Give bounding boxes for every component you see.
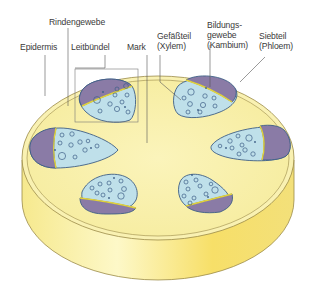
stem-cross-section-diagram: Rindengewebe Epidermis Leitbündel Mark G… <box>0 0 316 290</box>
label-gefaessteil-line1: Gefäßteil <box>157 31 191 41</box>
label-leitbuendel: Leitbündel <box>71 42 110 52</box>
label-siebteil-line2: (Phloem) <box>259 41 293 51</box>
label-siebteil-line1: Siebteil <box>259 31 293 41</box>
label-gefaessteil-line2: (Xylem) <box>157 41 191 51</box>
label-epidermis: Epidermis <box>20 42 57 52</box>
label-rindengewebe: Rindengewebe <box>49 17 105 27</box>
label-siebteil: Siebteil (Phloem) <box>259 31 293 51</box>
label-bildungsgewebe-line1: Bildungs- <box>207 20 248 30</box>
label-bildungsgewebe-line3: (Kambium) <box>207 40 248 50</box>
label-mark: Mark <box>127 42 146 52</box>
label-bildungsgewebe: Bildungs- gewebe (Kambium) <box>207 20 248 50</box>
label-gefaessteil: Gefäßteil (Xylem) <box>157 31 191 51</box>
label-bildungsgewebe-line2: gewebe <box>207 30 248 40</box>
